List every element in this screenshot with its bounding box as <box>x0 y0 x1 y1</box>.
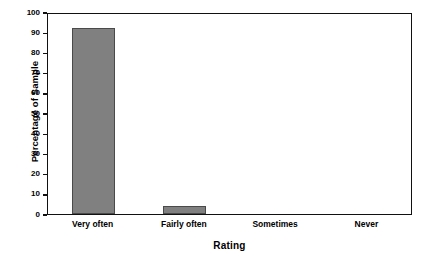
bar <box>72 28 115 214</box>
y-tick-label: 0 <box>36 210 40 219</box>
bars-container <box>48 14 411 214</box>
x-tick-label: Never <box>355 219 379 229</box>
y-tick-label: 80 <box>31 48 40 57</box>
x-axis-title: Rating <box>47 240 412 251</box>
x-tick-label: Fairly often <box>161 219 207 229</box>
y-tick-label: 30 <box>31 149 40 158</box>
x-axis-ticks: Very oftenFairly oftenSometimesNever <box>47 219 412 235</box>
y-tick-label: 70 <box>31 68 40 77</box>
x-tick-label: Sometimes <box>252 219 297 229</box>
y-tick-label: 60 <box>31 88 40 97</box>
y-tick-label: 20 <box>31 169 40 178</box>
x-tick-label: Very often <box>72 219 113 229</box>
y-tick-label: 90 <box>31 28 40 37</box>
y-tick-label: 100 <box>27 8 40 17</box>
y-tick-label: 10 <box>31 189 40 198</box>
bar <box>163 206 206 214</box>
plot-area <box>47 13 412 215</box>
y-tick-label: 40 <box>31 129 40 138</box>
bar-chart: Percentage of Sample 0102030405060708090… <box>0 0 433 274</box>
y-axis-ticks: 0102030405060708090100 <box>0 13 47 215</box>
y-tick-label: 50 <box>31 109 40 118</box>
